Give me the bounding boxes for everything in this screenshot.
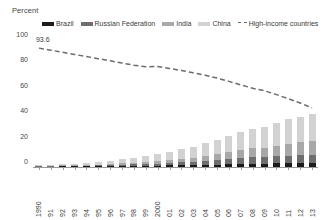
x-tick-slot: 11 <box>282 169 294 217</box>
x-tick-mark <box>312 167 313 170</box>
x-tick-mark <box>193 167 194 170</box>
legend-label-china: China <box>212 20 230 27</box>
x-tick-mark <box>217 167 218 170</box>
x-tick-mark <box>146 167 147 170</box>
x-tick-slot: 04 <box>199 169 211 217</box>
x-tick-slot: 92 <box>57 169 69 217</box>
legend-swatch-brazil <box>42 22 54 26</box>
x-tick-slot: 08 <box>247 169 259 217</box>
x-tick-95: 95 <box>95 169 102 217</box>
x-tick-mark <box>288 167 289 170</box>
x-tick-07: 07 <box>237 169 244 217</box>
x-tick-11: 11 <box>285 169 292 217</box>
x-axis-labels: 1990919293949596979899200001020304050607… <box>33 169 318 217</box>
x-tick-mark <box>300 167 301 170</box>
x-tick-slot: 93 <box>69 169 81 217</box>
x-tick-mark <box>276 167 277 170</box>
x-tick-slot: 97 <box>116 169 128 217</box>
x-tick-01: 01 <box>166 169 173 217</box>
x-tick-04: 04 <box>202 169 209 217</box>
legend-item-china[interactable]: China <box>198 20 230 27</box>
x-tick-mark <box>98 167 99 170</box>
x-tick-96: 96 <box>107 169 114 217</box>
x-tick-slot: 02 <box>176 169 188 217</box>
y-tick-100: 100 <box>16 31 28 38</box>
x-tick-92: 92 <box>59 169 66 217</box>
legend-item-brazil[interactable]: Brazil <box>42 20 74 27</box>
legend-label-russian-federation: Russian Federation <box>95 20 156 27</box>
x-tick-02: 02 <box>178 169 185 217</box>
x-tick-slot: 2000 <box>152 169 164 217</box>
x-tick-12: 12 <box>297 169 304 217</box>
x-tick-97: 97 <box>119 169 126 217</box>
y-tick-60: 60 <box>20 81 28 88</box>
x-tick-slot: 10 <box>271 169 283 217</box>
first-point-label: 93.6 <box>36 36 50 43</box>
x-tick-mark <box>63 167 64 170</box>
legend-label-india: India <box>176 20 191 27</box>
legend-label-brazil: Brazil <box>56 20 74 27</box>
x-tick-mark <box>39 167 40 170</box>
x-tick-slot: 07 <box>235 169 247 217</box>
x-tick-slot: 03 <box>187 169 199 217</box>
x-tick-06: 06 <box>225 169 232 217</box>
x-tick-93: 93 <box>71 169 78 217</box>
x-tick-slot: 12 <box>294 169 306 217</box>
x-tick-91: 91 <box>47 169 54 217</box>
legend-item-high-income-countries[interactable]: High-income countries <box>238 20 319 27</box>
x-tick-1990: 1990 <box>35 169 42 217</box>
x-tick-03: 03 <box>190 169 197 217</box>
x-tick-08: 08 <box>249 169 256 217</box>
x-tick-mark <box>86 167 87 170</box>
x-tick-slot: 94 <box>81 169 93 217</box>
legend-swatch-india <box>162 22 174 26</box>
x-tick-mark <box>110 167 111 170</box>
x-tick-slot: 95 <box>92 169 104 217</box>
x-tick-slot: 1990 <box>33 169 45 217</box>
x-tick-mark <box>158 167 159 170</box>
x-tick-slot: 09 <box>259 169 271 217</box>
plot-area <box>33 40 318 167</box>
x-tick-mark <box>241 167 242 170</box>
chart-legend: Brazil Russian Federation India China Hi… <box>42 20 318 27</box>
x-tick-99: 99 <box>142 169 149 217</box>
y-tick-20: 20 <box>20 132 28 139</box>
x-tick-slot: 05 <box>211 169 223 217</box>
legend-swatch-russian-federation <box>81 22 93 26</box>
x-tick-mark <box>229 167 230 170</box>
y-axis-title: Percent <box>12 6 39 15</box>
x-tick-slot: 99 <box>140 169 152 217</box>
legend-item-india[interactable]: India <box>162 20 191 27</box>
x-tick-98: 98 <box>130 169 137 217</box>
high-income-countries-line <box>39 48 312 108</box>
x-tick-mark <box>170 167 171 170</box>
x-tick-94: 94 <box>83 169 90 217</box>
x-tick-mark <box>122 167 123 170</box>
y-tick-80: 80 <box>20 56 28 63</box>
x-tick-slot: 06 <box>223 169 235 217</box>
y-tick-0: 0 <box>24 158 28 165</box>
x-tick-slot: 96 <box>104 169 116 217</box>
y-axis-labels: 020406080100 <box>0 34 30 167</box>
x-axis-line <box>33 167 318 168</box>
legend-dashed-line-icon <box>238 22 247 23</box>
x-tick-slot: 98 <box>128 169 140 217</box>
x-tick-mark <box>181 167 182 170</box>
x-tick-slot: 91 <box>45 169 57 217</box>
x-tick-mark <box>265 167 266 170</box>
x-tick-mark <box>51 167 52 170</box>
x-tick-mark <box>253 167 254 170</box>
x-tick-mark <box>75 167 76 170</box>
y-tick-40: 40 <box>20 107 28 114</box>
x-tick-slot: 13 <box>306 169 318 217</box>
x-tick-09: 09 <box>261 169 268 217</box>
x-tick-mark <box>134 167 135 170</box>
chart-container: Percent Brazil Russian Federation India … <box>0 0 325 220</box>
x-tick-10: 10 <box>273 169 280 217</box>
x-tick-2000: 2000 <box>154 169 161 217</box>
x-tick-05: 05 <box>214 169 221 217</box>
legend-item-russian-federation[interactable]: Russian Federation <box>81 20 156 27</box>
legend-label-high-income-countries: High-income countries <box>249 20 319 27</box>
line-series-high-income-countries <box>33 40 318 167</box>
x-tick-13: 13 <box>309 169 316 217</box>
